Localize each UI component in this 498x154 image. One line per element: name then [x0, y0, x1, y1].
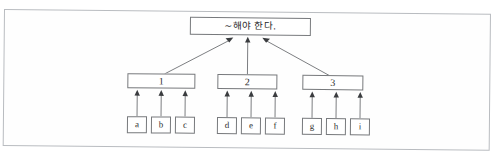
node-i[interactable]: i	[350, 118, 370, 135]
screenshot-root: ~해야 한다. 1 2 3 a b c d e f g h i	[0, 0, 498, 154]
node-b[interactable]: b	[151, 116, 171, 133]
edge-node3-to-root	[265, 40, 329, 75]
arrowhead-h-to-node3	[334, 92, 339, 98]
arrowhead-a-to-node1	[135, 90, 140, 96]
node-f[interactable]: f	[265, 117, 285, 134]
arrowhead-d-to-node2	[225, 91, 230, 97]
edge-node1-to-root	[164, 40, 229, 75]
arrowhead-c-to-node1	[183, 90, 188, 96]
node-e[interactable]: e	[241, 117, 261, 134]
node-3[interactable]: 3	[302, 75, 363, 91]
arrowhead-e-to-node2	[249, 91, 254, 97]
node-h[interactable]: h	[326, 118, 346, 135]
node-1[interactable]: 1	[127, 73, 195, 89]
arrowhead-f-to-node2	[273, 91, 278, 97]
arrowhead-b-to-node1	[159, 90, 164, 96]
node-root[interactable]: ~해야 한다.	[190, 17, 311, 36]
node-2[interactable]: 2	[217, 74, 277, 90]
node-d[interactable]: d	[217, 117, 237, 134]
arrowhead-g-to-node3	[310, 91, 315, 97]
node-c[interactable]: c	[175, 117, 195, 134]
tree-diagram: ~해야 한다. 1 2 3 a b c d e f g h i	[0, 0, 498, 154]
node-g[interactable]: g	[302, 118, 322, 135]
node-a[interactable]: a	[127, 116, 147, 133]
arrowhead-node1-to-root	[226, 37, 234, 42]
arrowhead-i-to-node3	[358, 92, 363, 98]
arrowhead-node2-to-root	[245, 37, 250, 43]
arrowhead-node3-to-root	[262, 38, 270, 43]
